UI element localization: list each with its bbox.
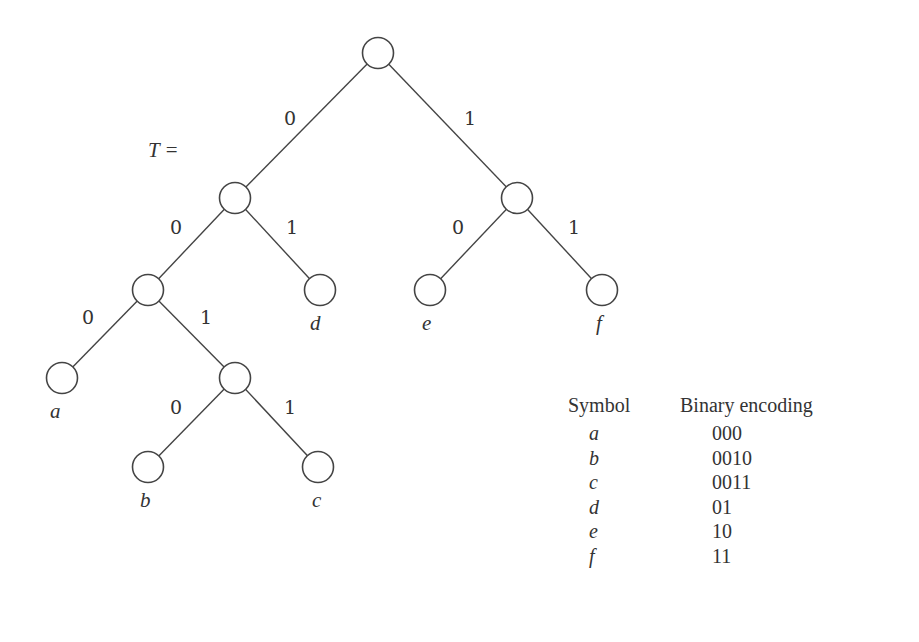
table-row: a 000 <box>568 422 880 447</box>
code-cell: 11 <box>680 545 880 570</box>
edge-label-root-left: 0 <box>284 107 296 129</box>
edge-label-n2-left: 0 <box>82 306 94 328</box>
edge-n2-right <box>148 290 235 378</box>
edge-label-n4-right: 1 <box>568 216 580 238</box>
leaf-label-b: b <box>140 488 151 512</box>
table-row: f 11 <box>568 545 880 570</box>
symbol-cell: c <box>568 471 680 496</box>
leaf-a <box>47 363 78 394</box>
tree-label: T= <box>148 138 178 162</box>
symbol-cell: f <box>568 545 680 570</box>
code-cell: 01 <box>680 496 880 521</box>
edge-n4-left <box>430 198 517 290</box>
edge-label-n3-left: 0 <box>170 396 182 418</box>
node-1 <box>502 183 533 214</box>
leaf-label-a: a <box>50 399 61 423</box>
leaf-label-e: e <box>422 311 431 335</box>
code-cell: 000 <box>680 422 880 447</box>
symbol-cell: d <box>568 496 680 521</box>
header-symbol: Symbol <box>568 394 680 422</box>
leaf-label-d: d <box>310 311 321 335</box>
code-cell: 0011 <box>680 471 880 496</box>
edge-root-right <box>378 53 517 198</box>
symbol-cell: a <box>568 422 680 447</box>
table-row: e 10 <box>568 520 880 545</box>
leaf-f <box>587 275 618 306</box>
node-root <box>363 38 394 69</box>
node-0 <box>220 183 251 214</box>
edge-n1-right <box>235 198 320 290</box>
node-00 <box>133 275 164 306</box>
edge-n4-right <box>517 198 602 290</box>
leaf-label-c: c <box>312 488 322 512</box>
symbol-cell: b <box>568 447 680 472</box>
leaf-label-f: f <box>596 311 605 335</box>
node-001 <box>220 363 251 394</box>
table-row: b 0010 <box>568 447 880 472</box>
leaf-b <box>133 452 164 483</box>
edge-label-n3-right: 1 <box>284 396 296 418</box>
edge-n2-left <box>62 290 148 378</box>
edge-n3-left <box>148 378 235 467</box>
code-cell: 0010 <box>680 447 880 472</box>
edge-root-left <box>235 53 378 198</box>
edge-n3-right <box>235 378 318 467</box>
edge-n1-left <box>148 198 235 290</box>
edge-label-root-right: 1 <box>464 107 476 129</box>
edge-label-n1-right: 1 <box>286 216 298 238</box>
edge-label-n1-left: 0 <box>170 216 182 238</box>
edge-label-n4-left: 0 <box>452 216 464 238</box>
leaf-e <box>415 275 446 306</box>
code-cell: 10 <box>680 520 880 545</box>
edge-label-n2-right: 1 <box>200 306 212 328</box>
table-row: d 01 <box>568 496 880 521</box>
symbol-cell: e <box>568 520 680 545</box>
header-binary-encoding: Binary encoding <box>680 394 880 422</box>
leaf-d <box>305 275 336 306</box>
table-row: c 0011 <box>568 471 880 496</box>
leaf-c <box>303 452 334 483</box>
table-header: Symbol Binary encoding <box>568 394 880 422</box>
encoding-table: Symbol Binary encoding a 000 b 0010 c 00… <box>568 394 880 569</box>
